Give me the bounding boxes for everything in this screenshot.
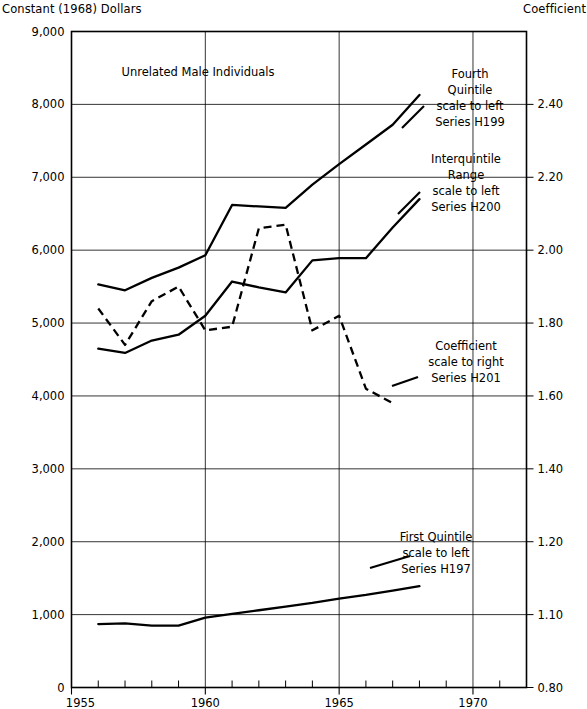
annotation-line: scale to right	[428, 355, 504, 369]
annotation-line: Series H199	[435, 115, 505, 129]
annotation-line: Coefficient	[435, 339, 497, 353]
annotation-first-quintile: First Quintilescale to leftSeries H197	[400, 530, 473, 576]
y2-tick-label: 2.20	[538, 170, 564, 184]
annotation-line: Series H201	[431, 371, 501, 385]
annotation-line: First Quintile	[400, 530, 473, 544]
y2-tick-label: 1.60	[538, 389, 564, 403]
annotation-line: Series H197	[401, 562, 471, 576]
annotation-line: Series H200	[431, 200, 501, 214]
annotations-group: FourthQuintilescale to leftSeries H199In…	[400, 67, 505, 576]
x-tick-label: 1960	[191, 696, 220, 709]
y2-tick-label: 1.10	[538, 608, 564, 622]
annotation-line: scale to left	[436, 99, 504, 113]
annotation-line: Range	[448, 168, 484, 182]
y2-tick-label: 1.20	[538, 535, 564, 549]
y-tick-label: 4,000	[32, 389, 65, 403]
annotation-line: Quintile	[448, 83, 493, 97]
y-tick-label: 5,000	[32, 316, 65, 330]
annotation-line: scale to left	[432, 184, 500, 198]
plot-title: Unrelated Male Individuals	[122, 65, 275, 79]
leader-lines-group	[370, 106, 424, 568]
annotation-line: Interquintile	[431, 152, 501, 166]
leader-line	[392, 377, 418, 386]
y2-tick-label: 2.40	[538, 97, 564, 111]
x-tick-label: 1970	[458, 696, 487, 709]
y-tick-label: 9,000	[32, 25, 65, 39]
y-tick-label: 1,000	[32, 608, 65, 622]
series-group	[98, 95, 419, 626]
y-tick-label: 7,000	[32, 170, 65, 184]
y-axis-labels: 01,0002,0003,0004,0005,0006,0007,0008,00…	[32, 25, 65, 695]
line-chart: 01,0002,0003,0004,0005,0006,0007,0008,00…	[0, 0, 587, 709]
x-axis-labels: 1955196019651970	[66, 696, 488, 709]
series-line-series-h199	[98, 95, 419, 290]
y-tick-label: 8,000	[32, 97, 65, 111]
y2-tick-label: 2.00	[538, 243, 564, 257]
annotation-fourth-quintile: FourthQuintilescale to leftSeries H199	[435, 67, 505, 129]
y-tick-label: 0	[57, 681, 64, 695]
x-tick-label: 1965	[325, 696, 354, 709]
series-line-series-h197	[98, 586, 419, 625]
annotation-coefficient: Coefficientscale to rightSeries H201	[428, 339, 504, 385]
y-tick-label: 6,000	[32, 243, 65, 257]
y-tick-label: 2,000	[32, 535, 65, 549]
y-tick-label: 3,000	[32, 462, 65, 476]
y2-tick-label: 1.80	[538, 316, 564, 330]
annotation-interquintile-range: InterquintileRangescale to leftSeries H2…	[431, 152, 501, 214]
x-tick-label: 1955	[66, 696, 95, 709]
y2-ticks-group	[527, 104, 534, 687]
series-line-series-h200	[98, 199, 419, 353]
y2-tick-label: 0.80	[538, 681, 564, 695]
y2-axis-labels: 0.801.101.201.401.601.802.002.202.40	[538, 97, 564, 694]
series-line-series-h201	[98, 225, 392, 404]
y2-tick-label: 1.40	[538, 462, 564, 476]
annotation-line: Fourth	[451, 67, 488, 81]
chart-page: Constant (1968) Dollars Coefficient 01,0…	[0, 0, 587, 709]
annotation-line: scale to left	[402, 546, 470, 560]
